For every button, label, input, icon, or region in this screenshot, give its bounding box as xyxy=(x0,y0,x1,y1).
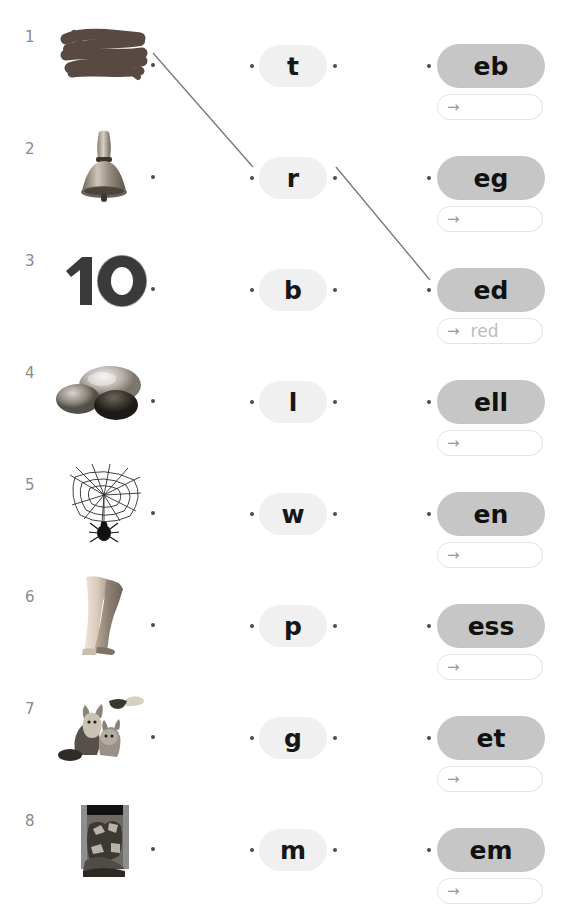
answer-input[interactable]: → xyxy=(437,94,543,120)
letter-left-connector-dot[interactable] xyxy=(250,512,254,516)
letter-right-connector-dot[interactable] xyxy=(333,176,337,180)
ending-pill-label: ell xyxy=(474,390,508,415)
worksheet-row: 2 xyxy=(0,124,565,236)
letter-pill-label: r xyxy=(287,166,299,191)
letter-right-connector-dot[interactable] xyxy=(333,64,337,68)
worksheet-row: 7 g et → xyxy=(0,684,565,796)
ending-connector-dot[interactable] xyxy=(427,288,431,292)
ending-pill[interactable]: em xyxy=(437,828,545,872)
answer-input[interactable]: → xyxy=(437,654,543,680)
arrow-right-icon: → xyxy=(447,548,460,563)
ending-pill-label: eg xyxy=(474,166,509,191)
row-number: 3 xyxy=(25,252,35,270)
ending-pill[interactable]: ed xyxy=(437,268,545,312)
letter-pill-label: b xyxy=(284,278,302,303)
letter-pill[interactable]: t xyxy=(259,45,327,87)
letter-left-connector-dot[interactable] xyxy=(250,400,254,404)
letter-pill-label: t xyxy=(287,54,299,79)
worksheet-row: 8 m xyxy=(0,796,565,908)
letter-right-connector-dot[interactable] xyxy=(333,288,337,292)
row-number: 8 xyxy=(25,812,35,830)
letter-pill-label: w xyxy=(281,502,304,527)
answer-input[interactable]: → red xyxy=(437,318,543,344)
letter-left-connector-dot[interactable] xyxy=(250,288,254,292)
picture-connector-dot[interactable] xyxy=(151,623,155,627)
arrow-right-icon: → xyxy=(447,772,460,787)
arrow-right-icon: → xyxy=(447,324,460,339)
letter-left-connector-dot[interactable] xyxy=(250,176,254,180)
letter-pill-label: g xyxy=(284,726,302,751)
row-number: 6 xyxy=(25,588,35,606)
picture-connector-dot[interactable] xyxy=(151,847,155,851)
letter-right-connector-dot[interactable] xyxy=(333,512,337,516)
arrow-right-icon: → xyxy=(447,660,460,675)
ending-pill-label: em xyxy=(469,838,512,863)
letter-left-connector-dot[interactable] xyxy=(250,848,254,852)
letter-pill[interactable]: g xyxy=(259,717,327,759)
picture-connector-dot[interactable] xyxy=(151,63,155,67)
ending-pill[interactable]: eg xyxy=(437,156,545,200)
row-number: 1 xyxy=(25,28,35,46)
row-number: 2 xyxy=(25,140,35,158)
ending-pill[interactable]: ell xyxy=(437,380,545,424)
arrow-right-icon: → xyxy=(447,212,460,227)
matching-worksheet: 1 t eb → 2 xyxy=(0,0,565,920)
legs-photo xyxy=(48,574,160,658)
worksheet-row: 4 xyxy=(0,348,565,460)
row-number: 7 xyxy=(25,700,35,718)
answer-input[interactable]: → xyxy=(437,542,543,568)
ending-connector-dot[interactable] xyxy=(427,624,431,628)
answer-input[interactable]: → xyxy=(437,206,543,232)
letter-pill[interactable]: r xyxy=(259,157,327,199)
ending-pill-label: ed xyxy=(474,278,509,303)
picture-connector-dot[interactable] xyxy=(151,399,155,403)
letter-right-connector-dot[interactable] xyxy=(333,400,337,404)
answer-value: red xyxy=(471,323,499,340)
letter-left-connector-dot[interactable] xyxy=(250,624,254,628)
ending-connector-dot[interactable] xyxy=(427,64,431,68)
arrow-right-icon: → xyxy=(447,436,460,451)
answer-input[interactable]: → xyxy=(437,430,543,456)
pets-photo xyxy=(48,686,160,770)
worksheet-row: 3 b ed → red xyxy=(0,236,565,348)
letter-right-connector-dot[interactable] xyxy=(333,624,337,628)
picture-connector-dot[interactable] xyxy=(151,735,155,739)
hand-bell-photo xyxy=(48,126,160,210)
letter-right-connector-dot[interactable] xyxy=(333,736,337,740)
picture-connector-dot[interactable] xyxy=(151,287,155,291)
messy-bin-photo xyxy=(48,798,160,882)
ending-connector-dot[interactable] xyxy=(427,176,431,180)
ending-pill[interactable]: en xyxy=(437,492,545,536)
letter-pill[interactable]: b xyxy=(259,269,327,311)
ending-connector-dot[interactable] xyxy=(427,848,431,852)
ending-connector-dot[interactable] xyxy=(427,400,431,404)
answer-input[interactable]: → xyxy=(437,878,543,904)
letter-pill[interactable]: l xyxy=(259,381,327,423)
letter-pill[interactable]: m xyxy=(259,829,327,871)
worksheet-row: 6 p xyxy=(0,572,565,684)
ending-pill-label: et xyxy=(477,726,506,751)
answer-input[interactable]: → xyxy=(437,766,543,792)
shells-photo xyxy=(48,350,160,434)
number-ten-photo xyxy=(48,238,160,322)
arrow-right-icon: → xyxy=(447,884,460,899)
spider-web-photo xyxy=(48,462,160,546)
picture-connector-dot[interactable] xyxy=(151,175,155,179)
letter-pill-label: p xyxy=(284,614,302,639)
ending-pill[interactable]: et xyxy=(437,716,545,760)
ending-pill[interactable]: eb xyxy=(437,44,545,88)
ending-connector-dot[interactable] xyxy=(427,736,431,740)
ending-pill[interactable]: ess xyxy=(437,604,545,648)
letter-right-connector-dot[interactable] xyxy=(333,848,337,852)
scribble-photo xyxy=(48,14,160,98)
worksheet-row: 1 t eb → xyxy=(0,12,565,124)
letter-pill[interactable]: w xyxy=(259,493,327,535)
ending-connector-dot[interactable] xyxy=(427,512,431,516)
ending-pill-label: ess xyxy=(468,614,515,639)
picture-connector-dot[interactable] xyxy=(151,511,155,515)
letter-left-connector-dot[interactable] xyxy=(250,64,254,68)
letter-pill[interactable]: p xyxy=(259,605,327,647)
letter-left-connector-dot[interactable] xyxy=(250,736,254,740)
row-number: 4 xyxy=(25,364,35,382)
worksheet-row: 5 xyxy=(0,460,565,572)
